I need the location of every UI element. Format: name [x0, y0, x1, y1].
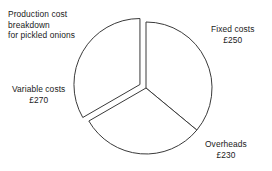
chart-title: Production cost breakdown for pickled on… [8, 9, 75, 41]
slice-label-overheads-name: Overheads [205, 139, 247, 150]
slice-label-overheads: Overheads £230 [205, 139, 247, 160]
chart-title-line-1: Production cost [8, 9, 75, 20]
slice-label-variable-costs-name: Variable costs [12, 84, 65, 95]
slice-label-fixed-costs-name: Fixed costs [211, 24, 254, 35]
slice-label-variable-costs-value: £270 [12, 95, 65, 106]
slice-label-variable-costs: Variable costs £270 [12, 84, 65, 105]
chart-title-line-2: breakdown [8, 20, 75, 31]
pie-chart-figure: Production cost breakdown for pickled on… [0, 0, 272, 171]
slice-label-fixed-costs: Fixed costs £250 [211, 24, 254, 45]
chart-title-line-3: for pickled onions [8, 30, 75, 41]
slice-label-fixed-costs-value: £250 [211, 35, 254, 46]
slice-label-overheads-value: £230 [205, 150, 247, 161]
